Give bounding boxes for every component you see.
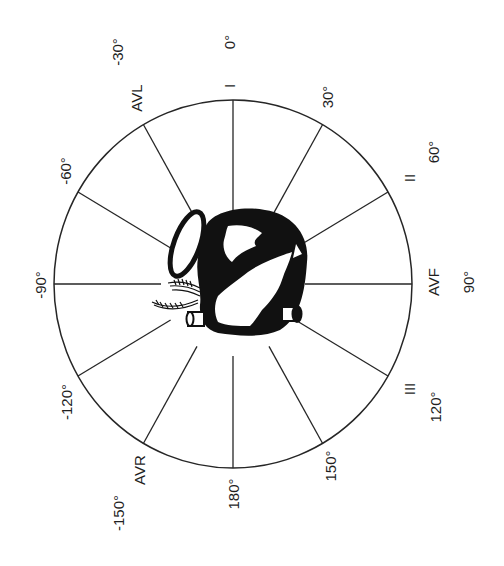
left-vessel	[187, 312, 205, 326]
degree-label-90: 90°	[460, 271, 477, 294]
lead-label-avl: AVL	[128, 84, 145, 111]
lead-label-i: I	[221, 84, 238, 88]
hexaxial-diagram: 0°30°60°90°120°150°180°-150°-120°-90°-60…	[0, 0, 504, 566]
lead-label-avf: AVF	[425, 268, 442, 296]
degree-label-180: 180°	[225, 478, 242, 509]
lead-label-avr: AVR	[131, 455, 148, 485]
right-vessel	[282, 306, 302, 322]
degree-label--60: -60°	[57, 157, 74, 185]
degree-label--120: -120°	[58, 384, 75, 420]
degree-label--30: -30°	[109, 38, 126, 66]
degree-label--90: -90°	[32, 271, 49, 299]
degree-label-30: 30°	[319, 86, 336, 109]
degree-label-120: 120°	[427, 391, 444, 422]
lead-label-iii: III	[401, 383, 418, 396]
lead-label-ii: II	[401, 174, 418, 182]
degree-label--150: -150°	[110, 495, 127, 531]
degree-label-0: 0°	[221, 35, 238, 49]
degree-label-150: 150°	[322, 450, 339, 481]
degree-label-60: 60°	[425, 141, 442, 164]
